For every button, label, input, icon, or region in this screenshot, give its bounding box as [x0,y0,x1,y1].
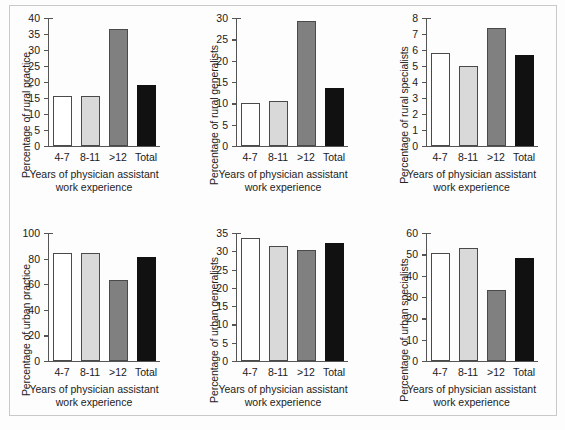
bar [109,280,128,361]
y-axis-tick-label: 60 [388,227,418,239]
y-axis-tick-label: 5 [10,124,40,136]
x-axis-tick-label: Total [323,366,345,378]
chart-grid: Percentage of rural practice051015202530… [0,0,565,430]
x-axis-tick-label: 4-7 [54,366,69,378]
bar [431,53,450,146]
x-axis-line [426,146,538,147]
bar [515,258,534,361]
figure-panel-grid: Percentage of rural practice051015202530… [0,0,565,430]
chart-panel-bottom-right: Percentage of urban specialists010203040… [378,215,565,430]
y-axis-tick-label: 20 [388,312,418,324]
y-axis-tick [232,306,236,307]
bar [137,257,156,361]
x-axis-label-line1: Years of physician assistant [378,383,565,396]
x-axis-tick-label: 4-7 [432,151,447,163]
y-axis-tick-label: 6 [388,44,418,56]
chart-panel-top-left: Percentage of rural practice051015202530… [0,0,188,215]
y-axis-tick-label: 10 [10,108,40,120]
chart-panel-top-center: Percentage of rural generalists051015202… [188,0,378,215]
y-axis-tick-label: 0 [388,355,418,367]
y-axis-tick-label: 10 [198,97,228,109]
x-axis-tick-label: >12 [109,151,127,163]
y-axis-tick-label: 60 [10,278,40,290]
x-axis-label-line1: Years of physician assistant [0,383,188,396]
plot-area: Percentage of rural practice051015202530… [0,0,188,215]
y-axis-top-cap [426,18,431,19]
y-axis-tick [44,335,48,336]
y-axis-tick-label: 2 [388,108,418,120]
y-axis-line [48,18,49,146]
y-axis-tick [422,82,426,83]
x-axis-tick-label: >12 [297,151,315,163]
y-axis-top-cap [236,18,241,19]
y-axis-tick-label: 30 [198,12,228,24]
bar [325,88,344,146]
y-axis-tick [232,233,236,234]
y-axis-tick [232,103,236,104]
plot-area: Percentage of rural specialists012345678… [378,0,565,215]
y-axis-tick-label: 3 [388,92,418,104]
bar [297,21,316,146]
y-axis-tick-label: 30 [198,245,228,257]
chart-panel-top-right: Percentage of rural specialists012345678… [378,0,565,215]
x-axis-tick-label: >12 [487,151,505,163]
y-axis-tick [232,39,236,40]
y-axis-tick [44,310,48,311]
y-axis-line [236,18,237,146]
bar [515,55,534,146]
x-axis-tick-label: >12 [487,366,505,378]
y-axis-tick-label: 25 [198,264,228,276]
y-axis-tick-label: 0 [10,355,40,367]
y-axis-tick-label: 20 [198,55,228,67]
y-axis-tick-label: 100 [10,227,40,239]
x-axis-line [236,146,348,147]
x-axis-label-line2: work experience [378,181,565,194]
y-axis-tick-label: 80 [10,253,40,265]
x-axis-tick-label: >12 [297,366,315,378]
y-axis-top-cap [236,233,241,234]
x-axis-tick-label: 8-11 [80,151,100,163]
y-axis-tick-label: 1 [388,124,418,136]
y-axis-tick [232,343,236,344]
y-axis-tick-label: 20 [198,282,228,294]
y-axis-tick-label: 4 [388,76,418,88]
x-axis-tick-label: 4-7 [242,151,257,163]
x-axis-tick-label: 8-11 [458,366,478,378]
x-axis-tick-label: 8-11 [458,151,478,163]
bar [53,253,72,361]
x-axis-line [48,361,160,362]
y-axis-tick [44,130,48,131]
y-axis-tick [44,114,48,115]
y-axis-tick-label: 10 [388,334,418,346]
bar [269,246,288,361]
plot-area: Percentage of urban generalists051015202… [188,215,378,430]
y-axis-tick [422,361,426,362]
plot-area: Percentage of rural generalists051015202… [188,0,378,215]
x-axis-tick-label: Total [513,151,535,163]
bar [325,243,344,361]
bar [459,66,478,146]
x-axis-label-line1: Years of physician assistant [0,168,188,181]
x-axis-label-line1: Years of physician assistant [188,383,378,396]
y-axis-tick-label: 5 [198,337,228,349]
y-axis-tick-label: 40 [388,270,418,282]
chart-panel-bottom-left: Percentage of urban practice020406080100… [0,215,188,430]
y-axis-tick [232,270,236,271]
y-axis-tick-label: 25 [198,33,228,45]
x-axis-label-line1: Years of physician assistant [188,168,378,181]
bar [53,96,72,146]
y-axis-tick [422,130,426,131]
x-axis-label-line2: work experience [188,396,378,409]
x-axis-tick-label: >12 [109,366,127,378]
bar [487,290,506,361]
y-axis-tick [44,233,48,234]
y-axis-tick [44,259,48,260]
y-axis-top-cap [48,233,53,234]
y-axis-tick-label: 0 [198,355,228,367]
x-axis-line [48,146,160,147]
y-axis-tick-label: 15 [198,76,228,88]
y-axis-tick [422,146,426,147]
y-axis-tick-label: 35 [198,227,228,239]
y-axis-tick [422,66,426,67]
y-axis-tick [44,361,48,362]
